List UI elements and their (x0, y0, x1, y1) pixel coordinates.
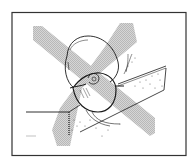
warning-illustration (0, 0, 196, 166)
